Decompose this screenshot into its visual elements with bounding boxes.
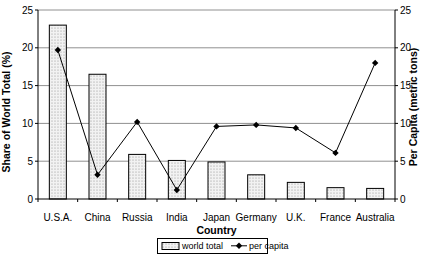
per-capita-marker <box>253 122 259 128</box>
per-capita-marker <box>372 60 378 66</box>
x-tick-label: Japan <box>203 212 230 223</box>
x-tick-label: France <box>320 212 352 223</box>
x-axis-title: Country <box>196 224 236 236</box>
per-capita-marker <box>213 123 219 129</box>
left-tick-label: 5 <box>27 156 33 167</box>
legend-label-per-capita: per capita <box>249 241 289 251</box>
x-tick-label: U.K. <box>286 212 305 223</box>
chart-svg: 00551010151520202525U.S.A.ChinaRussiaInd… <box>0 0 424 259</box>
left-tick-label: 0 <box>27 194 33 205</box>
per-capita-marker <box>293 125 299 131</box>
right-tick-label: 5 <box>400 156 406 167</box>
combo-chart: 00551010151520202525U.S.A.ChinaRussiaInd… <box>0 0 424 259</box>
bar-world-total <box>208 162 225 199</box>
x-tick-label: Russia <box>122 212 153 223</box>
x-tick-label: U.S.A. <box>43 212 72 223</box>
bar-world-total <box>287 182 304 199</box>
bar-world-total <box>327 188 344 199</box>
left-tick-label: 25 <box>22 5 34 16</box>
legend-label-world-total: world total <box>181 241 223 251</box>
left-tick-label: 20 <box>22 42 34 53</box>
bar-world-total <box>129 154 146 199</box>
right-axis-title: Per Capita (metric tons) <box>407 48 419 166</box>
left-tick-label: 10 <box>22 118 34 129</box>
x-tick-label: China <box>84 212 111 223</box>
right-tick-label: 0 <box>400 194 406 205</box>
left-tick-label: 15 <box>22 80 34 91</box>
per-capita-marker <box>332 150 338 156</box>
right-tick-label: 25 <box>400 5 412 16</box>
x-tick-label: Australia <box>356 212 395 223</box>
bar-world-total <box>367 188 384 199</box>
legend-bar-swatch <box>162 243 179 250</box>
plot-area: 00551010151520202525U.S.A.ChinaRussiaInd… <box>0 5 419 254</box>
x-tick-label: Germany <box>236 212 277 223</box>
bar-world-total <box>89 74 106 199</box>
x-tick-label: India <box>166 212 188 223</box>
bar-world-total <box>248 175 265 199</box>
left-axis-title: Share of World Total (%) <box>0 52 12 173</box>
